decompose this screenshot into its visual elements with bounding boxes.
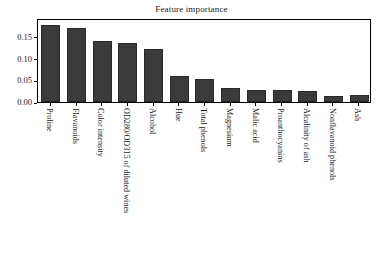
x-tick-label: Malic acid bbox=[250, 108, 258, 143]
x-tick-mark bbox=[153, 103, 154, 106]
bar bbox=[273, 90, 292, 102]
x-tick-label: Proanthocyanins bbox=[276, 108, 284, 163]
y-tick-label: 0.15 bbox=[17, 32, 32, 43]
x-tick-mark bbox=[50, 103, 51, 106]
bar bbox=[247, 90, 266, 102]
x-tick-label: Flavanoids bbox=[71, 108, 79, 144]
x-tick-label: Proline bbox=[45, 108, 53, 132]
x-tick-label: Nonflavanoid phenols bbox=[327, 108, 335, 181]
y-tick-label: 0.10 bbox=[17, 54, 32, 65]
x-tick-mark bbox=[358, 103, 359, 106]
x-tick-label: Total phenols bbox=[199, 108, 207, 152]
chart-title: Feature importance bbox=[0, 4, 383, 14]
x-tick-mark bbox=[178, 103, 179, 106]
x-tick-mark bbox=[76, 103, 77, 106]
bar bbox=[67, 28, 86, 102]
y-tick-label: 0.00 bbox=[17, 97, 32, 108]
bar bbox=[144, 49, 163, 102]
x-tick-label: Hue bbox=[173, 108, 181, 122]
bar bbox=[93, 41, 112, 102]
bar bbox=[195, 79, 214, 102]
bar bbox=[41, 25, 60, 102]
bar bbox=[221, 88, 240, 102]
bar bbox=[324, 96, 343, 103]
x-tick-mark bbox=[307, 103, 308, 106]
x-tick-mark bbox=[204, 103, 205, 106]
x-tick-label: Magnesium bbox=[225, 108, 233, 147]
x-tick-mark bbox=[332, 103, 333, 106]
x-tick-mark bbox=[255, 103, 256, 106]
bar bbox=[298, 91, 317, 102]
x-tick-label: Color intensity bbox=[96, 108, 104, 157]
bar bbox=[118, 43, 137, 102]
x-tick-label: Ash bbox=[353, 108, 361, 121]
plot-frame bbox=[37, 19, 371, 103]
figure-canvas: Feature importance 0.000.050.100.15 Prol… bbox=[0, 0, 383, 259]
x-tick-mark bbox=[281, 103, 282, 106]
bar bbox=[170, 76, 189, 102]
x-tick-label: OD280/OD315 of diluted wines bbox=[122, 108, 130, 213]
x-tick-mark bbox=[101, 103, 102, 106]
x-tick-mark bbox=[230, 103, 231, 106]
x-tick-label: Alcohol bbox=[148, 108, 156, 134]
x-tick-label: Alcalinity of ash bbox=[302, 108, 310, 163]
y-tick-label: 0.05 bbox=[17, 75, 32, 86]
x-tick-mark bbox=[127, 103, 128, 106]
plot-area bbox=[38, 20, 370, 102]
bar bbox=[350, 95, 369, 102]
